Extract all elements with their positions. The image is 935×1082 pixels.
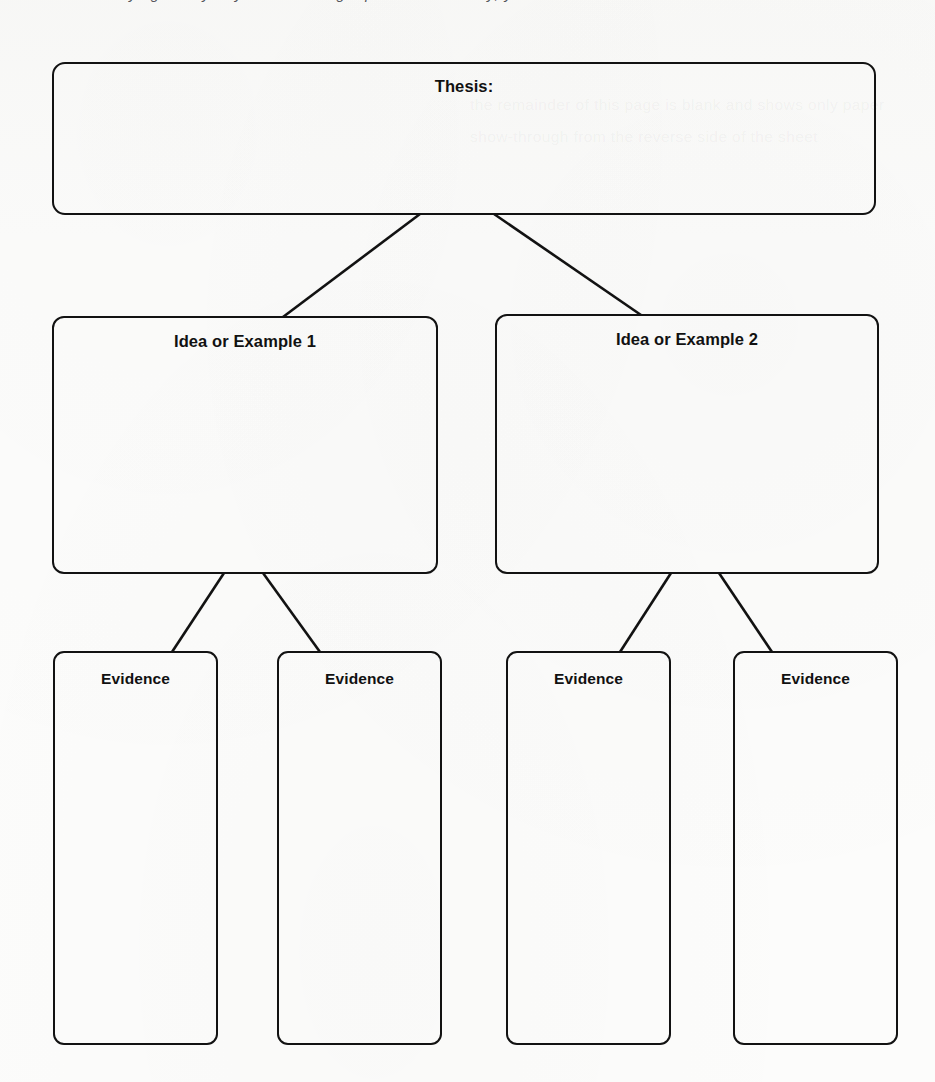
evidence-box-4[interactable]: Evidence bbox=[733, 651, 898, 1045]
clipped-body-text: trying to say. If you are writing a pers… bbox=[118, 0, 818, 2]
thesis-box[interactable]: Thesis: bbox=[52, 62, 876, 215]
worksheet-page: trying to say. If you are writing a pers… bbox=[0, 0, 935, 1082]
clipped-body-text-line: trying to say. If you are writing a pers… bbox=[0, 0, 935, 12]
idea-or-example-1-box[interactable]: Idea or Example 1 bbox=[52, 316, 438, 574]
evidence-box-1-label: Evidence bbox=[55, 670, 216, 688]
evidence-box-3[interactable]: Evidence bbox=[506, 651, 671, 1045]
evidence-box-3-label: Evidence bbox=[508, 670, 669, 688]
edge-idea-2-to-evidence-4 bbox=[719, 573, 772, 652]
thesis-box-label: Thesis: bbox=[54, 77, 874, 96]
idea-or-example-2-label: Idea or Example 2 bbox=[497, 330, 877, 349]
evidence-box-2-label: Evidence bbox=[279, 670, 440, 688]
evidence-box-2[interactable]: Evidence bbox=[277, 651, 442, 1045]
edge-idea-1-to-evidence-1 bbox=[172, 573, 224, 652]
edge-thesis-to-idea-2 bbox=[494, 214, 641, 315]
idea-or-example-2-box[interactable]: Idea or Example 2 bbox=[495, 314, 879, 574]
idea-or-example-1-label: Idea or Example 1 bbox=[54, 332, 436, 351]
edge-thesis-to-idea-1 bbox=[283, 214, 420, 317]
evidence-box-4-label: Evidence bbox=[735, 670, 896, 688]
edge-idea-1-to-evidence-2 bbox=[263, 573, 320, 652]
edge-idea-2-to-evidence-3 bbox=[620, 573, 671, 652]
evidence-box-1[interactable]: Evidence bbox=[53, 651, 218, 1045]
